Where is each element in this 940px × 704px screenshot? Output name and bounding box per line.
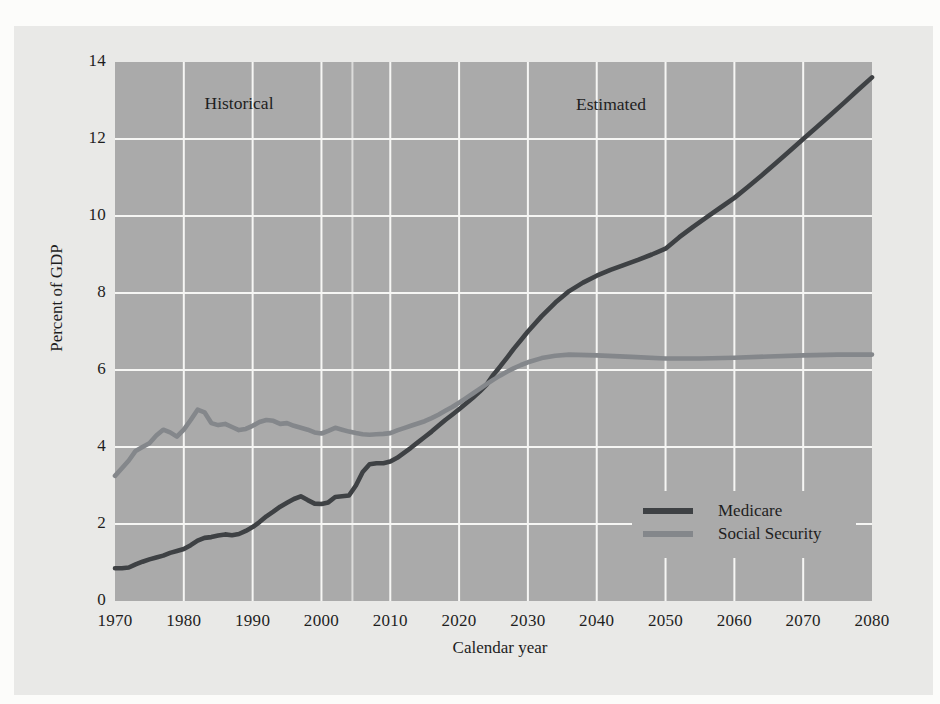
y-tick-label: 12 [40, 128, 106, 148]
x-tick-label: 2060 [704, 611, 764, 631]
legend-label-medicare: Medicare [718, 499, 782, 522]
social-security-line-swatch [643, 531, 693, 537]
x-tick-label: 2000 [291, 611, 351, 631]
page: { "figure": { "y_axis_title": "Percent o… [0, 0, 940, 704]
medicare-line-swatch [643, 508, 693, 514]
x-tick-label: 2070 [773, 611, 833, 631]
y-tick-label: 2 [40, 513, 106, 533]
x-tick-label: 2020 [429, 611, 489, 631]
x-tick-label: 2010 [360, 611, 420, 631]
x-tick-label: 1990 [223, 611, 283, 631]
legend-item-medicare: Medicare [632, 499, 856, 522]
y-tick-label: 0 [40, 590, 106, 610]
legend: Medicare Social Security [632, 491, 856, 558]
x-axis-title: Calendar year [453, 638, 548, 658]
x-tick-label: 1970 [85, 611, 145, 631]
legend-label-social-security: Social Security [718, 522, 821, 545]
x-tick-label: 2080 [842, 611, 902, 631]
x-tick-label: 2030 [498, 611, 558, 631]
x-tick-label: 1980 [154, 611, 214, 631]
x-tick-label: 2050 [636, 611, 696, 631]
y-tick-label: 14 [40, 51, 106, 71]
y-tick-label: 6 [40, 359, 106, 379]
region-label-estimated: Estimated [576, 94, 646, 115]
chart-canvas [0, 0, 940, 704]
y-tick-label: 8 [40, 282, 106, 302]
x-tick-label: 2040 [567, 611, 627, 631]
region-label-historical: Historical [204, 93, 273, 114]
legend-item-social-security: Social Security [632, 522, 856, 545]
y-tick-label: 10 [40, 205, 106, 225]
y-tick-label: 4 [40, 436, 106, 456]
